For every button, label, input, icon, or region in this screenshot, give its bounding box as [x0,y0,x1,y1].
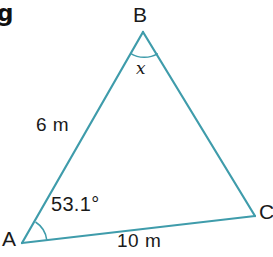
angle-arc-b [131,53,158,57]
angle-arc-a [36,222,47,240]
cropped-page-letter: g [0,2,13,25]
side-length-ab: 6 m [36,115,69,134]
figure-canvas: g B A C 6 m 10 m 53.1° x [0,0,273,257]
side-length-ac: 10 m [117,231,161,250]
angle-measure-a: 53.1° [51,194,99,214]
vertex-label-c: C [259,201,273,222]
side-bc-line [143,32,255,216]
vertex-label-b: B [133,4,147,25]
vertex-label-a: A [2,228,16,249]
angle-variable-b: x [136,60,146,77]
